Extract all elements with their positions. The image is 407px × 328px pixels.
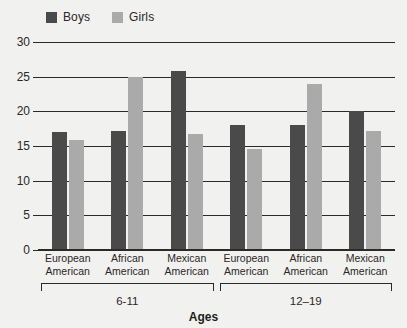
y-axis-tick [33, 42, 38, 43]
group-label-0: 6-11 [41, 294, 214, 308]
legend-entry-boys: Boys [46, 11, 90, 23]
category-label-line: African [98, 252, 158, 265]
category-label-1: AfricanAmerican [98, 252, 158, 277]
legend-label-boys: Boys [63, 11, 90, 23]
category-label-line: Mexican [157, 252, 217, 265]
category-label-2: MexicanAmerican [157, 252, 217, 277]
y-axis-tick [33, 215, 38, 216]
category-label-0: EuropeanAmerican [38, 252, 98, 277]
y-axis-tick [33, 181, 38, 182]
y-axis-tick [33, 111, 38, 112]
category-label-3: EuropeanAmerican [217, 252, 277, 277]
bar-girls-1 [128, 77, 143, 250]
category-label-line: American [217, 265, 277, 278]
gridline [38, 215, 395, 216]
gridline [38, 42, 395, 43]
group-label-1: 12–19 [220, 294, 393, 308]
bar-girls-4 [307, 84, 322, 250]
bar-boys-4 [290, 125, 305, 250]
chart-legend: Boys Girls [46, 11, 154, 23]
y-axis-tick-label: 20 [17, 105, 30, 117]
y-axis-tick-label: 10 [17, 175, 30, 187]
category-label-line: Mexican [336, 252, 396, 265]
gridline [38, 146, 395, 147]
category-label-4: AfricanAmerican [276, 252, 336, 277]
legend-entry-girls: Girls [112, 11, 154, 23]
y-axis-tick [33, 77, 38, 78]
x-axis-title: Ages [0, 310, 407, 324]
y-axis-tick-label: 15 [17, 140, 30, 152]
category-label-line: American [98, 265, 158, 278]
category-label-line: African [276, 252, 336, 265]
category-label-line: American [276, 265, 336, 278]
bar-girls-0 [69, 140, 84, 250]
y-axis-tick-label: 30 [17, 36, 30, 48]
x-axis-line [38, 249, 395, 251]
plot-area: 051015202530 [38, 42, 395, 250]
bar-girls-2 [188, 134, 203, 250]
group-labels: 6-1112–19 [38, 294, 395, 310]
bar-boys-2 [171, 71, 186, 250]
y-axis-tick-label: 25 [17, 71, 30, 83]
legend-label-girls: Girls [129, 11, 154, 23]
category-label-line: European [217, 252, 277, 265]
bar-boys-1 [111, 131, 126, 250]
category-label-line: American [38, 265, 98, 278]
group-brace-0 [41, 283, 214, 291]
group-braces [38, 283, 395, 292]
y-axis-tick-label: 5 [23, 209, 30, 221]
category-label-line: American [157, 265, 217, 278]
bar-boys-0 [52, 132, 67, 250]
category-label-line: American [336, 265, 396, 278]
y-axis-tick [33, 146, 38, 147]
gridline [38, 111, 395, 112]
category-label-line: European [38, 252, 98, 265]
bar-girls-3 [247, 149, 262, 250]
chart-figure: Boys Girls 051015202530 EuropeanAmerican… [0, 0, 407, 328]
legend-swatch-boys [46, 12, 57, 23]
bar-boys-5 [349, 111, 364, 250]
y-axis-tick-label: 0 [23, 244, 30, 256]
legend-swatch-girls [112, 12, 123, 23]
bar-boys-3 [230, 125, 245, 250]
category-label-5: MexicanAmerican [336, 252, 396, 277]
bar-girls-5 [366, 131, 381, 250]
group-brace-1 [220, 283, 393, 291]
gridline [38, 181, 395, 182]
gridline [38, 77, 395, 78]
category-labels: EuropeanAmericanAfricanAmericanMexicanAm… [38, 252, 395, 280]
